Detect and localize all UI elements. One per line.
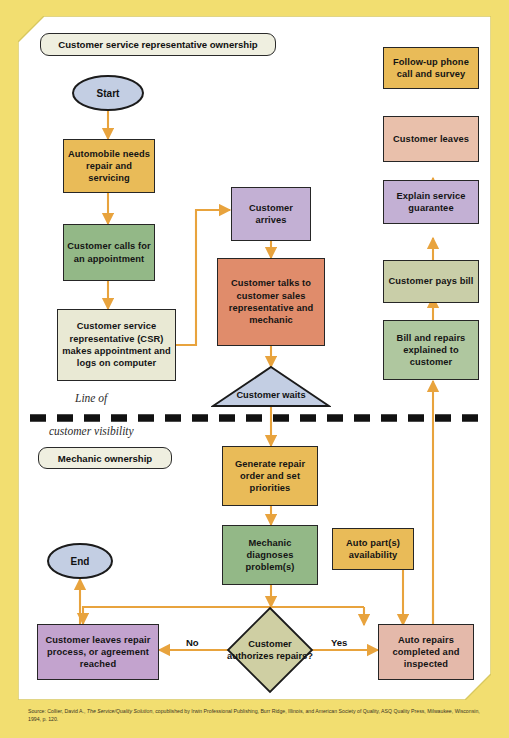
flowchart-stage: Customer service representative ownershi… [0,0,509,738]
node-followup-phone-call[interactable]: Follow-up phone call and survey [383,47,479,89]
node-customer-leaves[interactable]: Customer leaves [383,116,479,162]
node-auto-repairs-completed[interactable]: Auto repairs completed and inspected [378,624,474,680]
node-mechanic-diagnoses[interactable]: Mechanic diagnoses problem(s) [222,525,318,585]
node-customer-waits[interactable]: Customer waits [211,366,331,407]
node-end[interactable]: End [47,543,113,579]
visibility-label-line2: customer visibility [49,425,134,437]
node-start[interactable]: Start [72,75,144,111]
source-work-title: The Service/Quality Solution [87,708,152,714]
node-customer-arrives[interactable]: Customer arrives [231,187,311,241]
node-explain-service-guarantee[interactable]: Explain service guarantee [383,180,479,224]
node-customer-calls-appointment[interactable]: Customer calls for an appointment [63,224,155,281]
node-customer-waits-label: Customer waits [211,389,331,401]
source-citation: Source: Collier, David A., The Service/Q… [28,707,483,724]
band-label-csr-ownership: Customer service representative ownershi… [40,33,276,56]
node-customer-authorizes-repairs-label: Customer authorizes repairs? [226,638,314,662]
node-customer-leaves-repair-process[interactable]: Customer leaves repair process, or agree… [37,624,159,680]
edge-label-no: No [186,637,199,648]
node-csr-makes-appointment[interactable]: Customer service representative (CSR) ma… [57,309,176,381]
node-bill-and-repairs-explained[interactable]: Bill and repairs explained to customer [383,320,479,380]
visibility-label-line1: Line of [75,392,107,404]
band-label-mechanic-ownership: Mechanic ownership [38,447,172,469]
edge-label-yes: Yes [331,637,347,648]
source-prefix: Source: Collier, David A., [28,708,87,714]
node-customer-pays-bill[interactable]: Customer pays bill [383,260,479,303]
node-customer-authorizes-repairs[interactable]: Customer authorizes repairs? [226,606,314,694]
node-automobile-needs-repair[interactable]: Automobile needs repair and servicing [63,139,155,193]
node-auto-parts-availability[interactable]: Auto part(s) availability [332,528,414,570]
node-generate-repair-order[interactable]: Generate repair order and set priorities [222,446,318,506]
node-customer-talks-to-csr-mechanic[interactable]: Customer talks to customer sales represe… [217,258,325,346]
